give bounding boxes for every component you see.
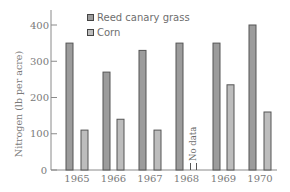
legend-label-corn: Corn [97,27,120,38]
bar-reed-1965 [66,43,73,170]
bar-corn-1965 [81,130,88,170]
bar-reed-1970 [249,25,256,170]
bar-corn-1969 [227,85,234,170]
bar-reed-1967 [139,50,146,170]
x-tick-label: 1969 [211,173,236,184]
y-tick-label: 400 [30,20,49,31]
x-tick-label: 1970 [247,173,272,184]
bar-reed-1968 [176,43,183,170]
bar-corn-1967 [154,130,161,170]
x-tick-labels: 1965 1966 1967 1968 1969 1970 [64,173,272,184]
bar-corn-1970 [264,112,271,170]
legend-swatch-reed [88,15,94,21]
y-tick-label: 200 [30,92,49,103]
y-ticks: 0 100 200 300 400 [30,20,57,176]
y-axis-label: Nitrogen (lb per acre) [13,51,24,157]
bar-reed-1966 [103,72,110,170]
nitrogen-bar-chart: Nitrogen (lb per acre) 0 100 200 300 400… [0,0,290,192]
x-tick-label: 1968 [174,173,199,184]
no-data-marker: No data [188,127,198,170]
no-data-label: No data [188,127,198,161]
y-tick-label: 0 [41,165,47,176]
legend-swatch-corn [88,30,94,36]
legend-label-reed: Reed canary grass [97,12,190,23]
y-tick-label: 100 [30,128,49,139]
bar-reed-1969 [213,43,220,170]
legend: Reed canary grass Corn [88,12,190,38]
x-tick-label: 1967 [137,173,162,184]
x-tick-label: 1966 [101,173,126,184]
bar-corn-1966 [117,119,124,170]
y-tick-label: 300 [30,56,49,67]
x-tick-label: 1965 [64,173,89,184]
